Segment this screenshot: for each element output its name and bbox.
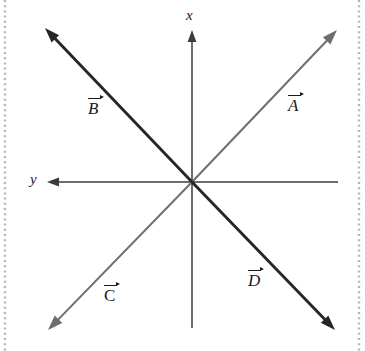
vector-a-shaft [192,37,330,182]
vector-c-shaft [55,182,192,323]
axis-label-x: x [186,8,193,23]
vector-a [192,30,337,182]
overarrow-head [116,282,120,286]
overarrow-head [260,267,264,271]
vector-label-a-glyph: A [288,97,298,114]
vector-label-c: C [104,287,115,304]
diagram-canvas [0,0,365,351]
overarrow-head [100,95,104,99]
vector-label-b-glyph: B [88,100,98,117]
axis-label-y: y [30,172,37,187]
vector-d [192,182,335,330]
vector-label-d-glyph: D [248,272,260,289]
overarrow-head [300,92,304,96]
vector-label-b: B [88,100,98,117]
vector-c [48,182,192,330]
vector-label-d: D [248,272,260,289]
axis-vertical-arrowhead [188,30,197,42]
vector-d-shaft [192,182,328,323]
vector-label-c-glyph: C [104,287,115,304]
vector-b [45,28,192,182]
vector-layer [45,28,337,330]
axis-horizontal-arrowhead [47,178,59,187]
vector-label-a: A [288,97,298,114]
vector-b-shaft [52,35,192,182]
vector-diagram-figure: x y A B C D [0,0,365,351]
